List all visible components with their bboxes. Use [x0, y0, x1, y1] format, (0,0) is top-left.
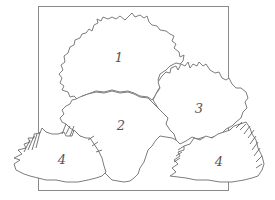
plant-3-label: 3 [195, 101, 203, 116]
planting-diagram: 1 2 3 4 4 [0, 0, 275, 200]
plant-1-label: 1 [115, 50, 123, 65]
plant-4-right-label: 4 [214, 154, 223, 169]
plant-4-left-label: 4 [57, 152, 66, 167]
plant-2-label: 2 [116, 118, 125, 133]
